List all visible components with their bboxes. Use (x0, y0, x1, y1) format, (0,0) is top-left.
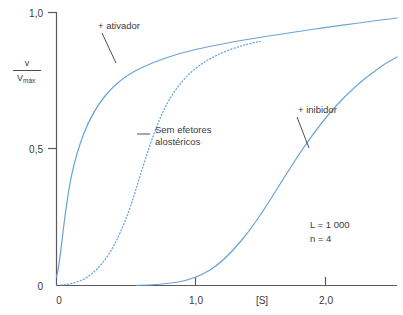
annotation-no-effectors-label-line1: Sem efetores (155, 124, 212, 135)
annotation-activator-leader (102, 33, 116, 63)
y-axis-title: v V máx (13, 58, 41, 84)
y-tick-label-0: 0 (37, 281, 43, 292)
annotation-no-effectors-label-line2: alostéricos (155, 136, 201, 147)
y-axis-title-denominator-subscript: máx (23, 77, 36, 84)
x-tick-label-1: 1,0 (189, 295, 203, 306)
parameter-n: n = 4 (310, 233, 331, 244)
curve-inhibitor (137, 57, 397, 285)
curve-activator (57, 18, 398, 277)
annotation-inhibitor-leader (297, 117, 309, 148)
y-tick-label-1: 1,0 (29, 8, 43, 19)
x-tick-label-2: 2,0 (319, 295, 333, 306)
chart-figure: 1,0 0,5 0 0 1,0 2,0 [S] v V máx + ativad… (0, 0, 403, 315)
parameter-L: L = 1 000 (310, 219, 350, 230)
annotation-activator-label: + ativador (98, 20, 140, 31)
annotation-inhibitor-label: + inibidor (298, 104, 337, 115)
y-tick-label-05: 0,5 (29, 144, 43, 155)
x-tick-label-0: 0 (56, 295, 62, 306)
x-axis-title: [S] (256, 295, 268, 306)
y-axis-title-numerator: v (25, 58, 30, 68)
allosteric-kinetics-chart: 1,0 0,5 0 0 1,0 2,0 [S] v V máx + ativad… (0, 0, 403, 315)
curve-no-effectors (61, 42, 260, 286)
